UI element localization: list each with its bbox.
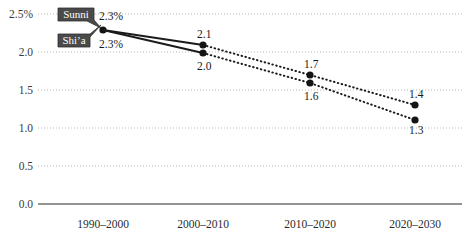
y-tick-2.5: 2.5% <box>9 8 33 20</box>
x-tick-2000-2010: 2000–2010 <box>177 218 229 230</box>
label-shia-1: 2.0 <box>197 60 212 72</box>
sunni-marker-2 <box>306 71 313 78</box>
label-shia-0: 2.3% <box>99 38 123 50</box>
label-sunni-0: 2.3% <box>99 10 123 22</box>
label-sunni-1: 2.1 <box>197 28 212 40</box>
chart-canvas: 2.5% 2.0 1.5 1.0 0.5 0.0 1990–2000 2000–… <box>0 0 470 246</box>
data-point-labels: 2.3% 2.3% 2.1 2.0 1.7 1.6 1.4 1.3 <box>99 10 424 136</box>
y-tick-2.0: 2.0 <box>19 46 34 58</box>
x-axis-tick-labels: 1990–2000 2000–2010 2010–2020 2020–2030 <box>77 218 441 230</box>
shia-marker-2 <box>306 79 313 86</box>
label-sunni-3: 1.4 <box>409 88 424 100</box>
y-tick-0.5: 0.5 <box>19 160 34 172</box>
sunni-marker-3 <box>411 101 418 108</box>
gridlines <box>38 14 462 166</box>
y-axis-tick-labels: 2.5% 2.0 1.5 1.0 0.5 0.0 <box>9 8 33 210</box>
y-tick-1.5: 1.5 <box>19 84 34 96</box>
x-tick-2010-2020: 2010–2020 <box>284 218 336 230</box>
callout-shia-label: Shi’a <box>62 34 85 46</box>
label-sunni-2: 1.7 <box>304 58 319 70</box>
y-tick-0.0: 0.0 <box>19 198 34 210</box>
sunni-marker-1 <box>199 41 206 48</box>
callout-sunni-label: Sunni <box>63 8 89 20</box>
shia-marker-3 <box>411 116 418 123</box>
y-tick-1.0: 1.0 <box>19 122 34 134</box>
x-tick-2020-2030: 2020–2030 <box>389 218 441 230</box>
callout-shia: Shi’a <box>58 25 101 47</box>
callout-sunni: Sunni <box>58 8 101 28</box>
line-chart: 2.5% 2.0 1.5 1.0 0.5 0.0 1990–2000 2000–… <box>0 0 470 246</box>
label-shia-2: 1.6 <box>304 90 319 102</box>
series-shia <box>103 30 419 124</box>
shia-marker-1 <box>199 49 206 56</box>
series-sunni <box>99 26 418 108</box>
x-tick-1990-2000: 1990–2000 <box>77 218 129 230</box>
label-shia-3: 1.3 <box>409 124 424 136</box>
